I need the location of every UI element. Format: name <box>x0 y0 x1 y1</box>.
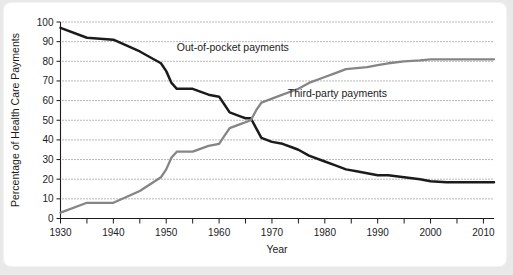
x-tick-label: 1930 <box>49 227 72 238</box>
x-tick-label: 1980 <box>314 227 337 238</box>
series-annotations: Out-of-pocket paymentsThird-party paymen… <box>177 41 387 98</box>
y-tick-label: 60 <box>42 95 54 106</box>
y-tick-label: 10 <box>42 193 54 204</box>
chart-svg: 0102030405060708090100 19301940195019601… <box>0 0 513 275</box>
y-tick-label: 0 <box>48 213 54 224</box>
x-tick-label: 1990 <box>367 227 390 238</box>
y-tick-label: 40 <box>42 134 54 145</box>
x-tick-label: 2010 <box>472 227 495 238</box>
x-axis-ticks: 193019401950196019701980199020002010 <box>49 219 495 238</box>
series-label-1: Third-party payments <box>288 87 387 99</box>
x-tick-label: 1950 <box>155 227 178 238</box>
y-tick-label: 90 <box>42 36 54 47</box>
x-tick-label: 1940 <box>102 227 125 238</box>
y-tick-label: 80 <box>42 56 54 67</box>
series-label-0: Out-of-pocket payments <box>177 41 289 53</box>
line-chart: 0102030405060708090100 19301940195019601… <box>0 0 513 275</box>
y-axis-ticks: 0102030405060708090100 <box>37 17 61 225</box>
x-axis-title: Year <box>266 243 288 255</box>
y-tick-label: 100 <box>37 17 54 28</box>
series-line-1 <box>61 59 495 212</box>
y-axis-title: Percentage of Health Care Payments <box>9 33 21 207</box>
y-tick-label: 30 <box>42 154 54 165</box>
x-tick-label: 1960 <box>208 227 231 238</box>
y-tick-label: 50 <box>42 115 54 126</box>
x-tick-label: 1970 <box>261 227 284 238</box>
x-tick-label: 2000 <box>419 227 442 238</box>
y-tick-label: 70 <box>42 75 54 86</box>
y-tick-label: 20 <box>42 174 54 185</box>
